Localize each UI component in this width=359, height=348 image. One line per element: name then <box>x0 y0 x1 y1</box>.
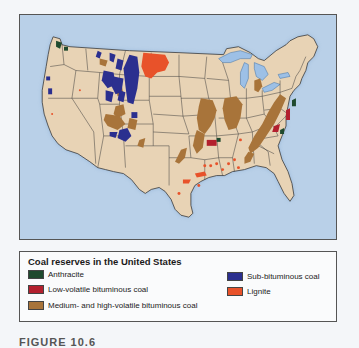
legend-item-lignite: Lignite <box>227 287 271 296</box>
oregon-sub <box>48 88 52 94</box>
legend: Coal reserves in the United States Anthr… <box>19 251 337 322</box>
lignite-swatch <box>227 287 243 296</box>
gulf-lignite-dot-4 <box>221 168 224 171</box>
legend-item-sub-bituminous: Sub-bituminous coal <box>227 272 319 281</box>
gulf-lignite-dot-3 <box>215 162 218 165</box>
legend-item-anthracite: Anthracite <box>28 270 84 279</box>
gulf-lignite-dot-1 <box>209 164 212 167</box>
low-volatile-swatch <box>28 285 44 294</box>
gulf-lignite-dot-5 <box>227 162 230 165</box>
legend-label: Anthracite <box>48 270 84 279</box>
tennessee-lignite-dot <box>239 138 242 141</box>
gulf-lignite-dot-7 <box>237 166 240 169</box>
gulf-lignite-dot-9 <box>197 184 200 187</box>
gulf-lignite-dot-8 <box>178 192 181 195</box>
coal-reserves-map <box>19 14 337 240</box>
legend-item-low-volatile-bituminous: Low-volatile bituminous coal <box>28 285 148 294</box>
arkoma-basin <box>207 140 217 146</box>
west-lignite-dot-1 <box>79 89 81 91</box>
washington-anthracite-2 <box>64 47 68 51</box>
gulf-lignite-dot-6 <box>233 158 236 161</box>
west-lignite-dot-2 <box>51 113 53 115</box>
legend-label: Sub-bituminous coal <box>247 272 319 281</box>
arkansas-anthracite <box>217 138 221 142</box>
legend-label: Lignite <box>247 287 271 296</box>
gulf-lignite-dot-2 <box>203 164 206 167</box>
legend-label: Medium- and high-volatile bituminous coa… <box>48 301 197 310</box>
colorado-sub <box>131 112 137 118</box>
pocahontas-field <box>286 108 290 120</box>
legend-item-medium-high-volatile-bituminous: Medium- and high-volatile bituminous coa… <box>28 301 197 310</box>
sub-bituminous-swatch <box>227 272 243 281</box>
washington-sub <box>46 76 50 80</box>
map-svg <box>20 15 336 239</box>
anthracite-swatch <box>28 270 44 279</box>
legend-label: Low-volatile bituminous coal <box>48 285 148 294</box>
figure-caption: FIGURE 10.6 <box>19 336 96 348</box>
medium-high-volatile-swatch <box>28 301 44 310</box>
legend-title: Coal reserves in the United States <box>28 256 182 267</box>
